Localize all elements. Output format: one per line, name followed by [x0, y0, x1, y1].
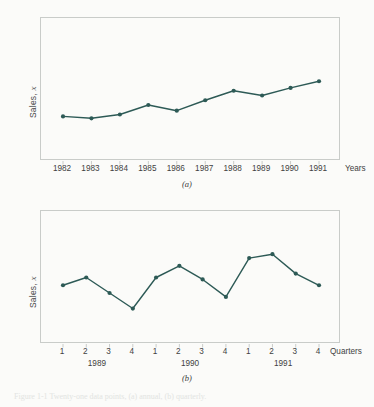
data-line: [63, 254, 319, 308]
data-point-marker: [317, 79, 321, 83]
data-line: [63, 81, 319, 118]
data-point-marker: [146, 103, 150, 107]
data-point-marker: [177, 264, 181, 268]
data-point-marker: [260, 93, 264, 97]
x-tick-label: 1985: [138, 164, 156, 173]
chart-a-subcaption: (a): [0, 179, 374, 189]
x-tick-label: 3: [106, 347, 111, 356]
x-tick-label: 1991: [309, 164, 327, 173]
chart-b-series-svg: [41, 211, 341, 344]
x-tick-label: 2: [269, 347, 274, 356]
chart-b-y-axis-label: Sales, x: [28, 276, 38, 308]
x-tick-label: 1: [60, 347, 65, 356]
data-point-marker: [232, 89, 236, 93]
x-group-label: 1989: [88, 359, 106, 368]
data-point-marker: [118, 112, 122, 116]
chart-b-group-labels: 198919901991: [40, 359, 340, 371]
x-tick-label: 1988: [224, 164, 242, 173]
data-point-marker: [317, 283, 321, 287]
data-point-marker: [61, 114, 65, 118]
data-point-marker: [270, 252, 274, 256]
data-point-marker: [107, 291, 111, 295]
x-tick-label: 1987: [195, 164, 213, 173]
chart-a: Sales, x 1982198319841985198619871988198…: [0, 0, 374, 196]
x-tick-label: 1984: [110, 164, 128, 173]
data-point-marker: [224, 295, 228, 299]
chart-b: Sales, x 123412341234 Quarters 198919901…: [0, 196, 374, 386]
x-tick-label: 4: [223, 347, 228, 356]
x-tick-label: 1983: [81, 164, 99, 173]
data-point-marker: [131, 306, 135, 310]
x-tick-label: 1: [153, 347, 158, 356]
chart-b-subcaption: (b): [0, 373, 374, 383]
data-point-marker: [247, 256, 251, 260]
x-tick-label: 4: [316, 347, 321, 356]
data-point-marker: [201, 277, 205, 281]
chart-b-x-tick-labels: 123412341234: [40, 347, 340, 359]
chart-a-series-svg: [41, 18, 341, 161]
chart-b-plot-frame: [40, 210, 340, 343]
data-point-marker: [61, 283, 65, 287]
x-group-label: 1990: [181, 359, 199, 368]
chart-a-x-axis-title: Years: [345, 164, 366, 173]
data-point-marker: [294, 272, 298, 276]
data-point-marker: [288, 86, 292, 90]
data-point-marker: [84, 275, 88, 279]
data-point-marker: [175, 109, 179, 113]
x-tick-label: 1982: [53, 164, 71, 173]
chart-b-x-axis-title: Quarters: [330, 347, 362, 356]
x-tick-label: 2: [176, 347, 181, 356]
x-tick-label: 3: [199, 347, 204, 356]
x-tick-label: 4: [130, 347, 135, 356]
x-tick-label: 1: [246, 347, 251, 356]
x-tick-label: 1986: [167, 164, 185, 173]
chart-a-x-tick-labels: 1982198319841985198619871988198919901991: [40, 164, 340, 176]
data-point-marker: [89, 116, 93, 120]
chart-a-plot-frame: [40, 17, 340, 160]
x-tick-label: 3: [292, 347, 297, 356]
x-group-label: 1991: [274, 359, 292, 368]
chart-a-y-axis-label: Sales, x: [28, 86, 38, 118]
data-point-marker: [203, 98, 207, 102]
figure-caption: Figure 1-1 Twenty-one data points, (a) a…: [14, 392, 364, 401]
x-tick-label: 1989: [252, 164, 270, 173]
data-point-marker: [154, 275, 158, 279]
x-tick-label: 1990: [280, 164, 298, 173]
figure-page: Sales, x 1982198319841985198619871988198…: [0, 0, 374, 407]
x-tick-label: 2: [83, 347, 88, 356]
